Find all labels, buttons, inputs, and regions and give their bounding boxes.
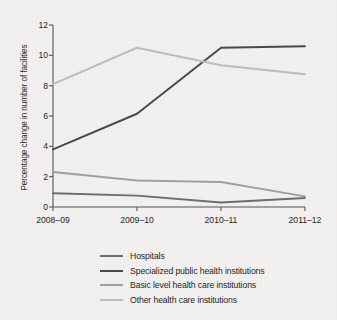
legend-item-label: Basic level health care institutions: [130, 280, 256, 290]
legend-color-swatch: [100, 255, 123, 257]
x-tick-label: 2008–09: [36, 215, 69, 225]
x-tick-label: 2009–10: [120, 215, 153, 225]
chart-legend: HospitalsSpecialized public health insti…: [100, 249, 310, 307]
x-tick-label: 2011–12: [289, 215, 322, 225]
chart-figure: Percentage change in number of facilitie…: [0, 0, 337, 320]
legend-item[interactable]: Hospitals: [100, 249, 310, 264]
x-tick-label: 2010–11: [205, 215, 238, 225]
legend-item[interactable]: Other health care institutions: [100, 293, 310, 308]
series-line: [53, 48, 305, 84]
series-line: [53, 46, 305, 149]
series-lines: [53, 46, 305, 202]
series-line: [53, 193, 305, 202]
series-line: [53, 172, 305, 196]
legend-item-label: Hospitals: [130, 251, 165, 261]
axes: [49, 25, 305, 211]
legend-item[interactable]: Basic level health care institutions: [100, 278, 310, 293]
legend-color-swatch: [100, 299, 123, 301]
legend-item-label: Other health care institutions: [130, 295, 237, 305]
legend-item[interactable]: Specialized public health institutions: [100, 264, 310, 279]
legend-item-label: Specialized public health institutions: [130, 266, 265, 276]
legend-color-swatch: [100, 284, 123, 286]
legend-color-swatch: [100, 270, 123, 272]
